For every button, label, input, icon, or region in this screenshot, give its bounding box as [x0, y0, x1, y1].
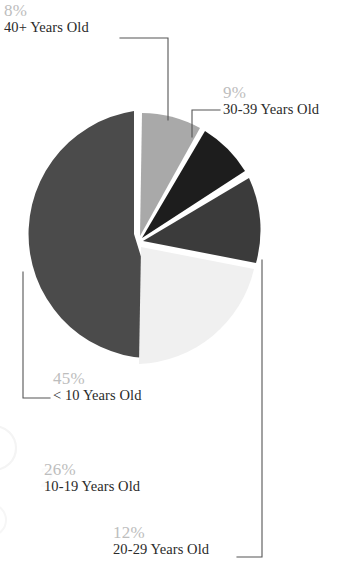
- slice-name-2029: 20-29 Years Old: [113, 542, 209, 557]
- slice-percent-2029: 12%: [113, 524, 209, 542]
- slice-name-lt10: < 10 Years Old: [53, 388, 142, 403]
- slice-label-lt10: 45% < 10 Years Old: [53, 370, 142, 403]
- slice-label-3039: 9% 30-39 Years Old: [223, 84, 319, 117]
- slice-label-1019: 26% 10-19 Years Old: [44, 461, 140, 494]
- slice-name-3039: 30-39 Years Old: [223, 102, 319, 117]
- slice-percent-3039: 9%: [223, 84, 319, 102]
- leader-line-40plus: [120, 38, 168, 120]
- slice-name-1019: 10-19 Years Old: [44, 479, 140, 494]
- pie-slices: [29, 111, 261, 364]
- slice-percent-40plus: 8%: [4, 2, 89, 20]
- slice-label-40plus: 8% 40+ Years Old: [4, 2, 89, 35]
- slice-1019[interactable]: [139, 247, 254, 364]
- slice-name-40plus: 40+ Years Old: [4, 20, 89, 35]
- slice-percent-lt10: 45%: [53, 370, 142, 388]
- slice-percent-1019: 26%: [44, 461, 140, 479]
- slice-label-2029: 12% 20-29 Years Old: [113, 524, 209, 557]
- pie-chart: 2 8% 40+ Years O: [0, 0, 350, 568]
- leader-line-2029: [237, 260, 262, 557]
